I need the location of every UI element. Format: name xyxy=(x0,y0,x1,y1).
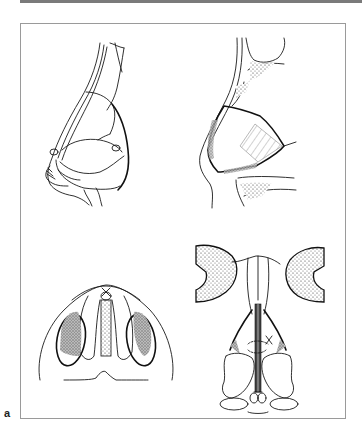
panel-bottom-left-basal-view xyxy=(39,285,173,380)
panel-top-left-lateral-nose xyxy=(46,43,129,206)
panel-top-right-lateral-graft xyxy=(200,38,296,208)
panel-bottom-right-frontal-view xyxy=(196,245,324,413)
panel-label: a xyxy=(4,407,10,419)
figure-illustration xyxy=(0,0,362,442)
